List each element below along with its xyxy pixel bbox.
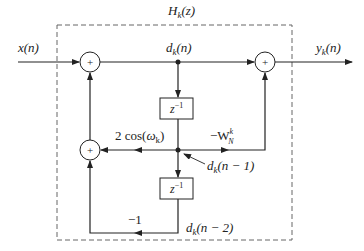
- input-label: x(n): [17, 40, 39, 55]
- svg-text:+: +: [87, 56, 93, 68]
- cos-gain-arrow-icon: [134, 147, 142, 153]
- svg-text:+: +: [262, 56, 268, 68]
- adder-middle-left: +: [80, 140, 100, 160]
- adder-top-right: +: [255, 52, 275, 72]
- delay-block-1: z−1: [160, 98, 193, 119]
- gain-cos-label: 2 cos(ωk): [115, 128, 164, 145]
- node-dk-n1-label: dk(n − 1): [207, 158, 254, 175]
- dk-n1-pointer: [184, 154, 205, 164]
- node-dk-n-label: dk(n): [166, 40, 192, 57]
- output-label: yk(n): [314, 40, 341, 57]
- gain-w-label: −WkN: [210, 127, 234, 146]
- w-gain-arrow-icon: [221, 147, 229, 153]
- gain-minus-one-label: −1: [128, 212, 142, 227]
- svg-text:+: +: [87, 144, 93, 156]
- goertzel-block-diagram: Hk(z) x(n) + dk(n) + yk(n) z−1 2 cos(ωk)…: [0, 0, 364, 251]
- adder-top-left: +: [80, 52, 100, 72]
- hk-title: Hk(z): [167, 3, 195, 20]
- node-dk-n2-label: dk(n − 2): [186, 220, 233, 237]
- minus-one-arrow-icon: [134, 230, 142, 236]
- delay-block-2: z−1: [160, 178, 193, 199]
